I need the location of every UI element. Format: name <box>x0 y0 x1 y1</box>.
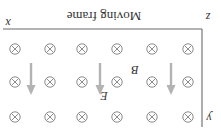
into-page-icon <box>77 112 87 122</box>
into-page-icon <box>10 44 20 54</box>
into-page-icon <box>147 44 157 54</box>
z-axis-label: z <box>205 10 211 24</box>
e-arrow-icon <box>167 63 176 95</box>
into-page-icon <box>45 77 55 87</box>
b-field-label: B <box>131 63 139 77</box>
into-page-icon <box>10 77 20 87</box>
magnetic-field-grid <box>10 44 193 122</box>
into-page-icon <box>10 112 20 122</box>
x-axis-label: x <box>5 16 12 30</box>
electric-field-arrows <box>27 63 176 95</box>
into-page-icon <box>112 77 122 87</box>
into-page-icon <box>45 44 55 54</box>
title-label: Moving frame <box>66 9 141 24</box>
into-page-icon <box>112 112 122 122</box>
moving-frame-diagram: Moving frame x z y B E <box>0 0 221 137</box>
into-page-icon <box>45 112 55 122</box>
into-page-icon <box>147 77 157 87</box>
into-page-icon <box>183 77 193 87</box>
into-page-icon <box>112 44 122 54</box>
y-axis-label: y <box>206 111 213 125</box>
into-page-icon <box>77 77 87 87</box>
into-page-icon <box>183 44 193 54</box>
into-page-icon <box>77 44 87 54</box>
into-page-icon <box>147 112 157 122</box>
into-page-icon <box>183 112 193 122</box>
e-arrow-icon <box>27 63 36 95</box>
